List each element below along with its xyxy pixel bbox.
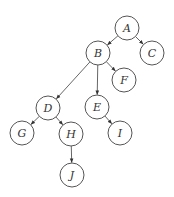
edge-a-c [135,36,143,44]
node-label: E [92,101,101,114]
node-e: E [85,95,109,119]
node-label: J [68,169,75,182]
edge-b-d [56,62,90,99]
node-label: A [122,22,131,35]
node-d: D [36,96,60,120]
node-label: G [18,127,27,140]
node-label: D [43,102,53,115]
node-label: I [117,127,123,140]
node-b: B [86,41,110,65]
edge-e-i [105,116,112,124]
node-label: B [93,47,102,60]
node-label: C [148,47,157,60]
node-h: H [59,122,83,146]
edge-b-e [97,65,98,95]
node-label: H [65,128,76,141]
node-i: I [108,121,132,145]
tree-diagram: ABCFDEGHIJ [0,0,174,197]
tree-diagram-svg: ABCFDEGHIJ [0,0,174,197]
node-a: A [115,16,139,40]
edge-b-f [106,62,115,71]
node-label: F [119,74,128,87]
edge-d-h [56,117,63,125]
node-j: J [60,163,84,187]
node-c: C [140,41,164,65]
node-f: F [112,68,136,92]
edge-d-g [31,116,39,124]
node-g: G [10,121,34,145]
edge-a-b [107,36,117,45]
